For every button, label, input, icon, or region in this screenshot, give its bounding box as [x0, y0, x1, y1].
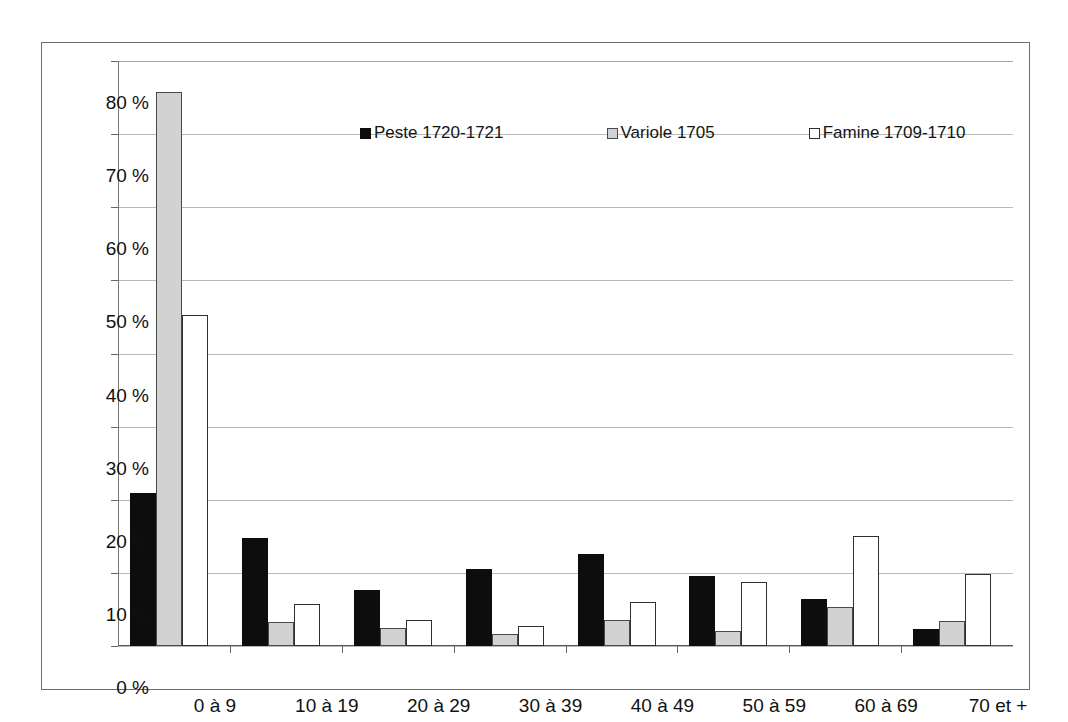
bar-group: [242, 61, 320, 646]
y-axis-tick-label: 80 %: [85, 92, 149, 114]
y-axis-tick-label: 30 %: [85, 458, 149, 480]
y-axis-tick: [111, 427, 118, 428]
bar: [741, 582, 767, 646]
y-axis-tick-label: 70 %: [85, 165, 149, 187]
bar: [242, 538, 268, 646]
bar: [578, 554, 604, 646]
bar-group: [801, 61, 879, 646]
bar: [827, 607, 853, 646]
legend-swatch-peste-icon: [360, 128, 371, 139]
bar: [294, 604, 320, 646]
bar: [354, 590, 380, 646]
bar: [913, 629, 939, 646]
chart-legend: Peste 1720-1721 Variole 1705 Famine 1709…: [360, 123, 965, 143]
bar-group: [354, 61, 432, 646]
bar: [604, 620, 630, 646]
bar: [380, 628, 406, 646]
legend-swatch-variole-icon: [607, 128, 618, 139]
x-axis-tick: [789, 646, 790, 653]
bar: [268, 622, 294, 646]
x-axis-category-labels: 0 à 910 à 1920 à 2930 à 3940 à 4950 à 59…: [159, 695, 1054, 722]
legend-item-famine: Famine 1709-1710: [809, 123, 966, 143]
legend-item-variole: Variole 1705: [607, 123, 715, 143]
bar: [715, 631, 741, 646]
bar-group: [130, 61, 208, 646]
x-axis-tick: [454, 646, 455, 653]
y-axis-tick-label: 20 %: [85, 531, 149, 553]
x-axis-category-label: 40 à 49: [607, 695, 719, 717]
x-axis-category-label: 20 à 29: [383, 695, 495, 717]
bar: [965, 574, 991, 646]
x-axis-category-label: 0 à 9: [159, 695, 271, 717]
legend-label-famine: Famine 1709-1710: [823, 123, 966, 143]
legend-label-variole: Variole 1705: [621, 123, 715, 143]
bar: [939, 621, 965, 646]
legend-label-peste: Peste 1720-1721: [374, 123, 504, 143]
bar: [406, 620, 432, 646]
x-axis-tick: [342, 646, 343, 653]
bar: [853, 536, 879, 646]
chart-figure-frame: 0 %10 %20 %30 %40 %50 %60 %70 %80 % 0 à …: [41, 42, 1030, 690]
bar: [630, 602, 656, 646]
y-axis-tick: [111, 646, 118, 647]
y-axis-tick-label: 50 %: [85, 311, 149, 333]
y-axis-tick: [111, 280, 118, 281]
bar-group: [689, 61, 767, 646]
legend-swatch-famine-icon: [809, 128, 820, 139]
x-axis-category-label: 60 à 69: [830, 695, 942, 717]
y-axis-tick: [111, 61, 118, 62]
bar-group: [466, 61, 544, 646]
bar: [182, 315, 208, 646]
x-axis-tick: [230, 646, 231, 653]
bars-layer: [118, 61, 1013, 646]
y-axis-tick: [111, 134, 118, 135]
y-axis-tick: [111, 573, 118, 574]
x-axis-tick: [901, 646, 902, 653]
bar: [466, 569, 492, 647]
x-axis-category-label: 50 à 59: [718, 695, 830, 717]
y-axis-tick: [111, 500, 118, 501]
bar: [801, 599, 827, 646]
legend-item-peste: Peste 1720-1721: [360, 123, 504, 143]
bar: [518, 626, 544, 646]
x-axis-category-label: 10 à 19: [271, 695, 383, 717]
x-axis-tick: [566, 646, 567, 653]
x-axis-tick: [677, 646, 678, 653]
y-axis-tick-label: 40 %: [85, 385, 149, 407]
y-axis-tick: [111, 207, 118, 208]
y-axis-tick-label: 10 %: [85, 604, 149, 626]
y-axis-tick-label: 60 %: [85, 238, 149, 260]
y-axis-tick: [111, 354, 118, 355]
bar: [492, 634, 518, 646]
x-axis-category-label: 70 et +: [942, 695, 1054, 717]
bar-group: [578, 61, 656, 646]
bar-group: [913, 61, 991, 646]
bar: [689, 576, 715, 646]
bar: [156, 92, 182, 646]
plot-area: [118, 61, 1013, 646]
x-axis-category-label: 30 à 39: [495, 695, 607, 717]
y-axis-tick-label: 0 %: [85, 677, 149, 699]
